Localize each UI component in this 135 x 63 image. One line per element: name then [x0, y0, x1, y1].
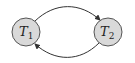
- node-t1-subscript: 1: [28, 31, 34, 41]
- node-t1: T1: [12, 18, 40, 46]
- node-t2: T2: [94, 18, 122, 46]
- state-diagram: T1 T2: [0, 0, 135, 63]
- node-t2-subscript: 2: [109, 31, 115, 41]
- edge-t1-to-t2: [35, 7, 100, 21]
- edge-t2-to-t1: [35, 43, 99, 57]
